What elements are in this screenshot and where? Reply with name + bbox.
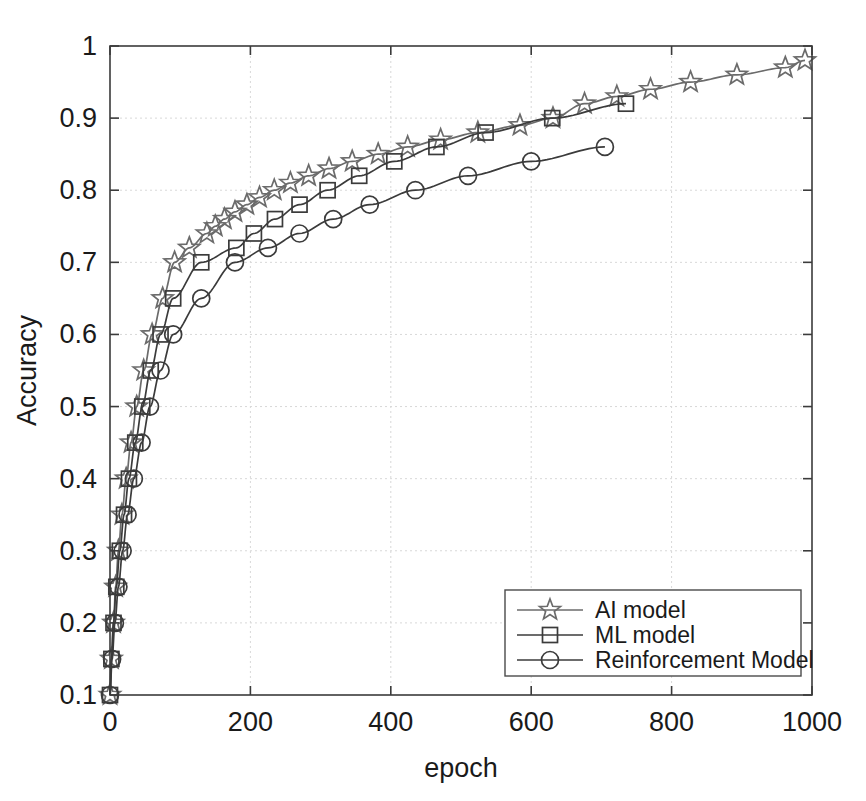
xtick-label: 800 [649,707,694,737]
ytick-label: 0.3 [59,536,97,566]
accuracy-vs-epoch-chart: 0.10.20.30.40.50.60.70.80.91020040060080… [0,0,866,801]
ytick-label: 0.9 [59,103,97,133]
xtick-label: 400 [368,707,413,737]
legend-label-1: AI model [595,597,686,623]
x-axis-title: epoch [424,753,498,783]
xtick-label: 1000 [782,707,842,737]
ytick-label: 0.4 [59,464,97,494]
ytick-label: 0.6 [59,319,97,349]
legend-label-2: ML model [595,622,695,648]
chart-canvas: 0.10.20.30.40.50.60.70.80.91020040060080… [0,0,866,801]
y-axis-title: Accuracy [12,314,42,426]
xtick-label: 600 [509,707,554,737]
ytick-label: 0.1 [59,680,97,710]
ytick-label: 0.7 [59,247,97,277]
xtick-label: 0 [102,707,117,737]
ytick-label: 1 [82,31,97,61]
xtick-label: 200 [228,707,273,737]
ytick-label: 0.2 [59,608,97,638]
legend: AI modelML modelReinforcement Model [505,590,814,676]
ytick-label: 0.5 [59,392,97,422]
legend-label-3: Reinforcement Model [595,647,814,673]
ytick-label: 0.8 [59,175,97,205]
